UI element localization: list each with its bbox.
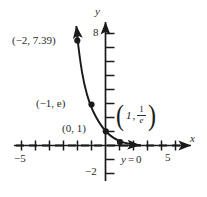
fraction-numerator: 1 <box>137 105 146 114</box>
point-neg2-label: (−2, 7.39) <box>12 35 56 46</box>
point-neg2-dot <box>74 37 80 43</box>
y-tick-label-neg2: −2 <box>85 166 97 177</box>
asymptote-rhs: 0 <box>136 153 142 165</box>
point-zero-label: (0, 1) <box>62 123 86 134</box>
y-axis-ticks <box>106 34 115 174</box>
y-axis-label: y <box>95 6 100 17</box>
point-zero-dot <box>103 128 109 134</box>
point-one-dot <box>117 139 123 145</box>
point-neg1-label: (−1, e) <box>36 98 65 109</box>
x-tick-label-5: 5 <box>165 152 171 163</box>
x-axis-label: x <box>190 133 195 144</box>
y-tick-label-8: 8 <box>93 27 99 38</box>
close-paren: ) <box>148 103 156 128</box>
graph-canvas <box>0 0 207 197</box>
point-one-label: ( 1 , 1 e ) <box>115 103 157 128</box>
exponential-graph-figure: y x 8 −2 −5 5 (−2, 7.39) (−1, e) (0, 1) … <box>0 0 207 197</box>
asymptote-op: = <box>126 153 136 165</box>
fraction-denominator: e <box>138 116 146 125</box>
open-paren: ( <box>116 103 124 128</box>
asymptote-label: y=0 <box>121 154 142 165</box>
point-neg1-dot <box>88 101 94 107</box>
fraction-one-over-e: 1 e <box>137 105 146 125</box>
x-tick-label-neg5: −5 <box>14 153 26 164</box>
